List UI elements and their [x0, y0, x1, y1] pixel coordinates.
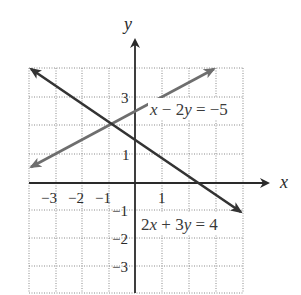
coordinate-graph: y x −3 −2 −1 1 3 1 −1 −2 −3 x − 2y = −5 …: [0, 0, 301, 295]
tick-y-neg1: −1: [112, 203, 128, 219]
tick-y-1: 1: [122, 147, 130, 163]
tick-x-1: 1: [158, 190, 166, 206]
tick-y-3: 3: [121, 90, 129, 106]
tick-x-neg3: −3: [41, 190, 57, 206]
line-2x-plus-3y-eq-4: [31, 69, 241, 212]
tick-x-neg1: −1: [95, 190, 111, 206]
equation-label-1: x − 2y = −5: [149, 100, 228, 119]
equation-label-2: 2x + 3y = 4: [141, 215, 218, 234]
tick-x-neg2: −2: [68, 190, 84, 206]
tick-y-neg3: −3: [112, 259, 128, 275]
x-axis-title: x: [279, 172, 288, 192]
tick-y-neg2: −2: [112, 231, 128, 247]
y-axis-title: y: [122, 14, 132, 34]
axes: [29, 40, 268, 293]
